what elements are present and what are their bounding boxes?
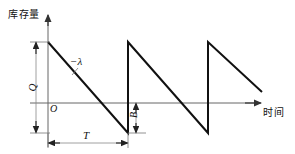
y-axis-label: 库存量 xyxy=(8,10,40,20)
figure-canvas: 库存量 时间 O Q T B −λ xyxy=(0,0,295,154)
order-quantity-label: Q xyxy=(27,84,38,92)
cycle-time-label: T xyxy=(83,130,89,141)
backorder-label: B xyxy=(129,112,139,118)
origin-label: O xyxy=(50,104,57,114)
x-axis-label: 时间 xyxy=(263,108,284,118)
slope-label: −λ xyxy=(70,56,82,67)
inventory-sawtooth-svg xyxy=(0,0,295,154)
